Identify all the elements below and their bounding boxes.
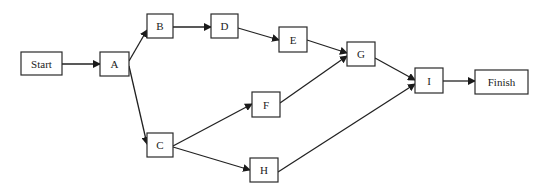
node-label: A xyxy=(111,58,119,70)
node-label: B xyxy=(156,20,163,32)
edge-a-to-c xyxy=(129,66,147,144)
node-label: E xyxy=(290,34,297,46)
node-g: G xyxy=(347,42,375,66)
edge-a-to-b xyxy=(129,30,147,61)
edge-d-to-e xyxy=(238,28,279,40)
node-a: A xyxy=(100,52,129,76)
node-label: C xyxy=(156,139,163,151)
node-label: D xyxy=(221,20,229,32)
node-label: Start xyxy=(31,58,52,70)
node-f: F xyxy=(252,92,280,117)
edge-g-to-i xyxy=(375,58,415,80)
node-label: G xyxy=(357,48,365,60)
edge-c-to-h xyxy=(173,147,250,170)
node-i: I xyxy=(415,68,443,93)
node-start: Start xyxy=(21,52,62,75)
node-c: C xyxy=(147,133,173,157)
edge-h-to-i xyxy=(278,84,415,172)
node-h: H xyxy=(250,158,278,182)
node-label: F xyxy=(263,99,269,111)
node-e: E xyxy=(279,27,307,52)
diagram-canvas: StartABDEGIFinishCFH xyxy=(0,0,545,195)
node-label: H xyxy=(260,164,268,176)
activity-network-diagram: StartABDEGIFinishCFH xyxy=(0,0,545,195)
edge-f-to-g xyxy=(280,56,347,103)
node-label: Finish xyxy=(488,76,516,88)
edge-e-to-g xyxy=(307,40,347,53)
node-b: B xyxy=(147,14,173,38)
node-label: I xyxy=(427,75,431,87)
node-finish: Finish xyxy=(475,70,528,94)
edge-c-to-f xyxy=(173,104,252,146)
node-d: D xyxy=(211,14,238,38)
